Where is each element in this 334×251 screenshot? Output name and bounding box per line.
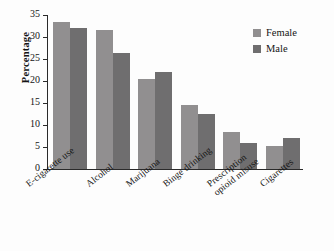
y-axis-tick: 15: [43, 103, 47, 104]
bar-group: [181, 15, 215, 169]
bar-group: [223, 15, 257, 169]
bar-chart: Percentage 05101520253035 E-cigarette us…: [0, 0, 334, 251]
y-axis-tick: 35: [43, 15, 47, 16]
y-axis-tick-label: 35: [20, 8, 40, 20]
bar-male-marijuana: [155, 72, 172, 169]
legend-label: Male: [266, 43, 288, 55]
y-axis-tick: 30: [43, 37, 47, 38]
legend-item-male: Male: [253, 42, 297, 55]
y-axis-tick-label: 5: [20, 140, 40, 152]
y-axis-line: [47, 15, 48, 170]
y-axis-tick-label: 20: [20, 74, 40, 86]
chart-legend: FemaleMale: [253, 26, 297, 58]
y-axis-tick-label: 15: [20, 96, 40, 108]
y-axis-tick: 20: [43, 81, 47, 82]
bar-group: [96, 15, 130, 169]
y-axis-tick: 5: [43, 147, 47, 148]
bar-female-alcohol: [96, 30, 113, 169]
y-axis-tick-label: 10: [20, 118, 40, 130]
legend-swatch-icon: [253, 45, 261, 53]
legend-label: Female: [266, 27, 297, 39]
y-axis-tick-label: 30: [20, 30, 40, 42]
bar-female-marijuana: [138, 79, 155, 169]
y-axis-tick-label: 25: [20, 52, 40, 64]
legend-item-female: Female: [253, 26, 297, 39]
bar-male-alcohol: [113, 53, 130, 169]
legend-swatch-icon: [253, 29, 261, 37]
bar-group: [138, 15, 172, 169]
y-axis-tick: 10: [43, 125, 47, 126]
y-axis-tick: 25: [43, 59, 47, 60]
